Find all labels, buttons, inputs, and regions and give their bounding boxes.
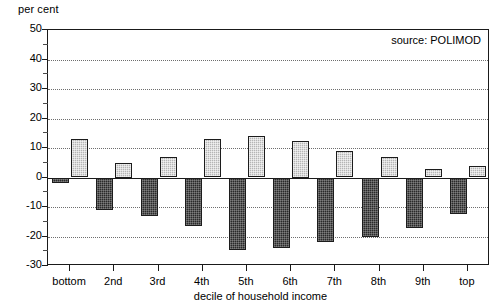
y-minor-tick--25: [43, 250, 48, 251]
x-tick-5th: [246, 265, 247, 271]
x-tick-label-2nd: 2nd: [104, 275, 122, 287]
x-tick-3rd: [158, 265, 159, 271]
y-minor-tick-25: [43, 103, 48, 104]
x-tick-label-3rd: 3rd: [150, 275, 166, 287]
x-tick-label-6th: 6th: [282, 275, 297, 287]
bar-chart: per cent source: POLIMOD -30-20-10010203…: [0, 0, 501, 308]
y-tick-label-40: 40: [4, 53, 42, 64]
y-tick-30: [42, 88, 48, 89]
x-tick-label-5th: 5th: [238, 275, 253, 287]
x-axis-title-text: decile of household income: [194, 290, 327, 302]
y-tick-label--20: -20: [4, 230, 42, 241]
x-tick-label-top: top: [459, 275, 474, 287]
x-tick-2nd: [113, 265, 114, 271]
x-tick-bottom: [69, 265, 70, 271]
y-minor-tick-45: [43, 44, 48, 45]
x-tick-label-4th: 4th: [194, 275, 209, 287]
y-tick-10: [42, 147, 48, 148]
y-minor-tick-35: [43, 73, 48, 74]
x-tick-label-7th: 7th: [327, 275, 342, 287]
y-tick-label-0: 0: [4, 171, 42, 182]
x-tick-label-8th: 8th: [371, 275, 386, 287]
y-tick-20: [42, 118, 48, 119]
y-minor-tick-15: [43, 132, 48, 133]
x-tick-top: [467, 265, 468, 271]
y-tick--10: [42, 206, 48, 207]
x-tick-7th: [334, 265, 335, 271]
y-minor-tick--5: [43, 191, 48, 192]
x-axis-title: decile of household income: [0, 290, 501, 302]
y-tick-0: [42, 177, 48, 178]
x-tick-label-9th: 9th: [415, 275, 430, 287]
x-tick-4th: [202, 265, 203, 271]
y-axis-ticks-group: -30-20-1001020304050: [0, 0, 501, 308]
y-tick-50: [42, 29, 48, 30]
y-tick-label--10: -10: [4, 200, 42, 211]
x-tick-6th: [290, 265, 291, 271]
y-tick-40: [42, 59, 48, 60]
y-tick--20: [42, 236, 48, 237]
y-tick-label-30: 30: [4, 82, 42, 93]
x-tick-label-bottom: bottom: [52, 275, 86, 287]
y-minor-tick-5: [43, 162, 48, 163]
y-tick-label-20: 20: [4, 112, 42, 123]
y-tick-label--30: -30: [4, 259, 42, 270]
y-minor-tick--15: [43, 221, 48, 222]
y-tick--30: [42, 265, 48, 266]
y-tick-label-50: 50: [4, 23, 42, 34]
x-tick-9th: [423, 265, 424, 271]
x-tick-8th: [379, 265, 380, 271]
y-tick-label-10: 10: [4, 141, 42, 152]
